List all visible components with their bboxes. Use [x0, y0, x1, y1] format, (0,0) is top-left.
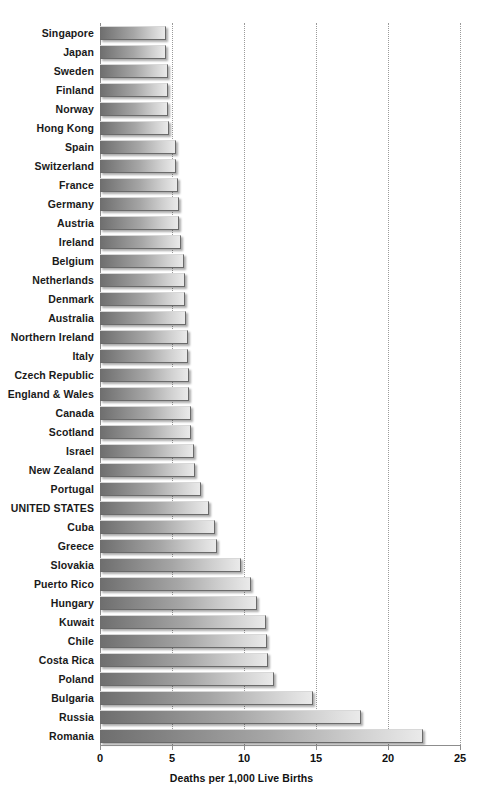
bar-row: Costa Rica [0, 650, 483, 670]
bar-category-label: England & Wales [8, 388, 94, 400]
bar [100, 387, 189, 401]
bar-category-label: Canada [55, 407, 94, 419]
bar-row: Russia [0, 707, 483, 727]
bar-row: Bulgaria [0, 688, 483, 708]
bar-category-label: Russia [59, 711, 94, 723]
bar-category-label: Australia [48, 312, 94, 324]
bar [100, 615, 266, 629]
bar [100, 273, 185, 287]
bar-category-label: Slovakia [51, 559, 94, 571]
bar-track [100, 729, 423, 743]
bar-category-label: Greece [58, 540, 94, 552]
bar [100, 368, 189, 382]
bar-track [100, 558, 241, 572]
bar-category-label: Japan [63, 46, 94, 58]
bar-track [100, 539, 217, 553]
bar-row: Australia [0, 308, 483, 328]
bar-row: Cuba [0, 517, 483, 537]
x-axis-tick-label: 10 [238, 752, 250, 764]
x-axis-tick-label: 5 [169, 752, 175, 764]
bar-category-label: Hong Kong [37, 122, 94, 134]
bar [100, 311, 186, 325]
bar-row: Switzerland [0, 156, 483, 176]
bar-category-label: Norway [55, 103, 94, 115]
bar-track [100, 235, 181, 249]
bar-category-label: Israel [66, 445, 94, 457]
bar [100, 216, 179, 230]
bar-track [100, 140, 176, 154]
bar-row: Slovakia [0, 555, 483, 575]
bar-row: Norway [0, 99, 483, 119]
bar-category-label: Ireland [59, 236, 94, 248]
bar-category-label: Bulgaria [51, 692, 94, 704]
bar [100, 634, 267, 648]
bar-row: New Zealand [0, 460, 483, 480]
bar-category-label: Austria [57, 217, 94, 229]
bar-track [100, 520, 215, 534]
x-axis-tick-label: 15 [310, 752, 322, 764]
bar-category-label: Germany [48, 198, 94, 210]
bar-track [100, 482, 201, 496]
bar-row: Japan [0, 42, 483, 62]
bar-track [100, 501, 209, 515]
bar [100, 501, 209, 515]
bar-row: Greece [0, 536, 483, 556]
bar [100, 444, 194, 458]
bar-category-label: France [59, 179, 94, 191]
bar-row: France [0, 175, 483, 195]
bar-category-label: Hungary [51, 597, 94, 609]
bar-row: Czech Republic [0, 365, 483, 385]
bar-category-label: Northern Ireland [11, 331, 94, 343]
bar [100, 558, 241, 572]
x-axis-tick-label: 20 [382, 752, 394, 764]
bar-row: Spain [0, 137, 483, 157]
bar [100, 425, 191, 439]
bar [100, 349, 188, 363]
x-axis-line [100, 745, 460, 746]
x-axis-tick [388, 745, 389, 750]
bar-category-label: Kuwait [59, 616, 94, 628]
bar-row: Sweden [0, 61, 483, 81]
bar-track [100, 596, 257, 610]
bar-track [100, 216, 179, 230]
bar-row: Israel [0, 441, 483, 461]
bar-row: Kuwait [0, 612, 483, 632]
bar [100, 653, 268, 667]
bar-track [100, 178, 178, 192]
bar [100, 159, 176, 173]
bar-track [100, 45, 166, 59]
bar-track [100, 292, 185, 306]
bar-track [100, 615, 266, 629]
bar-category-label: Czech Republic [14, 369, 94, 381]
bar [100, 140, 176, 154]
bar-track [100, 121, 169, 135]
bar [100, 254, 184, 268]
bar [100, 596, 257, 610]
bar [100, 672, 274, 686]
bar [100, 482, 201, 496]
bar-category-label: Netherlands [32, 274, 94, 286]
x-axis-tick-label: 0 [97, 752, 103, 764]
bar [100, 292, 185, 306]
x-axis-tick [172, 745, 173, 750]
bar-row: Italy [0, 346, 483, 366]
x-axis-tick [244, 745, 245, 750]
bar-track [100, 710, 361, 724]
bar-category-label: Portugal [51, 483, 94, 495]
bar-category-label: UNITED STATES [11, 502, 94, 514]
bar-track [100, 102, 168, 116]
x-axis-tick [100, 745, 101, 750]
x-axis-tick [316, 745, 317, 750]
bar [100, 121, 169, 135]
bar-row: Finland [0, 80, 483, 100]
bar-row: Hungary [0, 593, 483, 613]
bar-row: Denmark [0, 289, 483, 309]
bar-category-label: Poland [58, 673, 94, 685]
bar [100, 691, 313, 705]
bar-row: Hong Kong [0, 118, 483, 138]
bar-category-label: Romania [49, 730, 94, 742]
bar [100, 577, 251, 591]
x-axis-title: Deaths per 1,000 Live Births [0, 772, 483, 784]
bar-row: Netherlands [0, 270, 483, 290]
bar-category-label: Finland [56, 84, 94, 96]
